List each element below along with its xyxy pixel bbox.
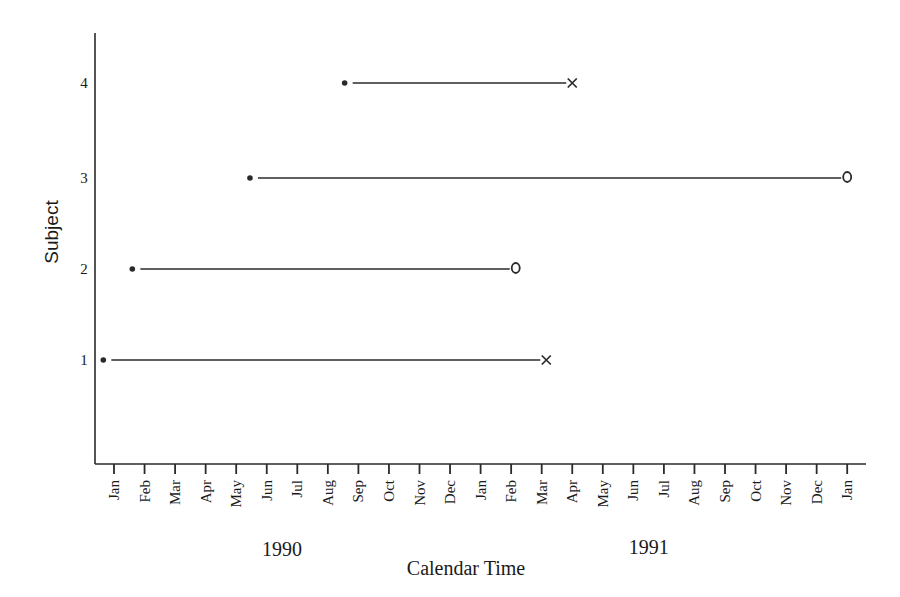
x-tick-label: Dec — [442, 480, 458, 504]
subject-1-timeline — [101, 356, 551, 365]
x-tick-label: Mar — [167, 480, 183, 505]
x-tick-label: Feb — [503, 480, 519, 503]
x-tick-label: May — [228, 480, 244, 508]
subject-timelines — [101, 79, 852, 365]
x-tick-label: Jul — [656, 480, 672, 498]
year-label: 1991 — [629, 536, 669, 558]
subject-3-timeline — [247, 172, 851, 182]
x-axis-ticks: JanFebMarAprMayJunJulAugSepOctNovDecJanF… — [106, 464, 855, 508]
x-tick-label: Jan — [106, 480, 122, 500]
x-tick-label: Apr — [564, 480, 580, 503]
x-tick-label: Nov — [778, 480, 794, 506]
x-tick-label: Jan — [473, 480, 489, 500]
x-axis-title: Calendar Time — [407, 557, 525, 579]
y-tick-label: 4 — [80, 75, 88, 91]
event-x-icon — [542, 356, 551, 365]
entry-dot-icon — [342, 80, 348, 86]
y-axis-title: Subject — [41, 200, 62, 264]
x-tick-label: Sep — [350, 480, 366, 503]
subject-2-timeline — [130, 263, 520, 273]
axes — [95, 33, 866, 464]
entry-dot-icon — [247, 175, 253, 181]
x-tick-label: Jun — [259, 480, 275, 501]
censored-o-icon — [843, 172, 851, 182]
x-tick-label: Nov — [412, 480, 428, 506]
x-tick-label: Jun — [625, 480, 641, 501]
y-tick-label: 1 — [80, 352, 88, 368]
x-tick-label: Mar — [534, 480, 550, 505]
entry-dot-icon — [130, 266, 136, 272]
x-tick-label: Aug — [686, 480, 702, 506]
year-label: 1990 — [262, 538, 302, 560]
x-tick-label: Oct — [748, 479, 764, 501]
x-tick-label: Jan — [839, 480, 855, 500]
x-tick-label: May — [595, 480, 611, 508]
y-tick-label: 2 — [80, 261, 88, 277]
subject-4-timeline — [342, 79, 577, 88]
x-tick-label: Dec — [809, 480, 825, 504]
x-tick-label: Oct — [381, 479, 397, 501]
x-tick-label: Apr — [198, 480, 214, 503]
event-x-icon — [568, 79, 577, 88]
timeline-chart: 1234 JanFebMarAprMayJunJulAugSepOctNovDe… — [0, 0, 900, 597]
x-tick-label: Sep — [717, 480, 733, 503]
censored-o-icon — [512, 263, 520, 273]
entry-dot-icon — [101, 357, 107, 363]
y-tick-label: 3 — [80, 170, 88, 186]
x-tick-label: Jul — [289, 480, 305, 498]
x-tick-label: Aug — [320, 480, 336, 506]
y-axis-ticks: 1234 — [80, 75, 88, 368]
x-tick-label: Feb — [137, 480, 153, 503]
